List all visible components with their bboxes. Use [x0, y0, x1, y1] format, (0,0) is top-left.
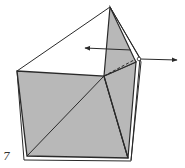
pull-right-arrow — [140, 59, 177, 60]
fold-illustration — [0, 0, 185, 168]
step-number: 7 — [3, 150, 10, 163]
pivot-point — [137, 57, 141, 61]
